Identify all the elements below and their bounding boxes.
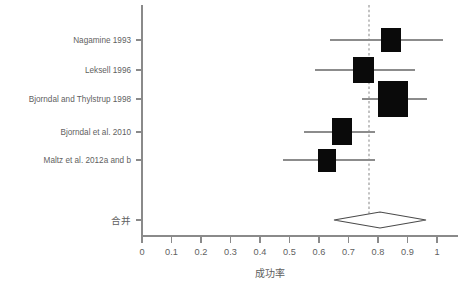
effect-size-marker	[353, 57, 374, 83]
effect-size-marker	[332, 118, 352, 145]
effect-size-marker	[318, 149, 336, 172]
x-tick-label-0-1: 0.1	[165, 247, 178, 257]
study-label-bjorndal-thylstrup-1998: Bjorndal and Thylstrup 1998	[29, 95, 132, 104]
x-tick-label-1: 1	[434, 247, 439, 257]
x-tick-label-0-7: 0.7	[342, 247, 355, 257]
x-tick-label-0-2: 0.2	[195, 247, 208, 257]
study-label-nagamine-1993: Nagamine 1993	[73, 36, 131, 45]
pooled-effect-diamond	[334, 212, 426, 228]
forest-plot-canvas: Nagamine 1993 Leksell 1996 Bjorndal and …	[0, 0, 466, 285]
y-axis-group	[136, 5, 142, 236]
x-tick-label-0: 0	[139, 247, 144, 257]
study-row-nagamine-1993	[330, 28, 443, 52]
x-axis-title: 成功率	[255, 267, 285, 279]
x-tick-label-0-4: 0.4	[254, 247, 267, 257]
study-row-bjorndal-2010	[304, 118, 375, 145]
x-axis-group	[142, 236, 458, 243]
study-label-maltz-2012: Maltz et al. 2012a and b	[44, 156, 132, 165]
x-tick-label-0-5: 0.5	[283, 247, 296, 257]
effect-size-marker	[381, 28, 401, 52]
x-tick-label-0-8: 0.8	[372, 247, 385, 257]
study-row-leksell-1996	[315, 57, 415, 83]
study-label-bjorndal-2010: Bjorndal et al. 2010	[60, 128, 131, 137]
x-tick-label-0-3: 0.3	[224, 247, 237, 257]
study-label-leksell-1996: Leksell 1996	[85, 66, 131, 75]
forest-plot-figure: Nagamine 1993 Leksell 1996 Bjorndal and …	[0, 0, 466, 285]
x-tick-label-0-6: 0.6	[313, 247, 326, 257]
effect-size-marker	[378, 81, 408, 117]
study-row-maltz-2012	[283, 149, 375, 172]
pooled-row-label: 合并	[111, 215, 131, 226]
x-tick-label-0-9: 0.9	[401, 247, 414, 257]
study-row-bjorndal-thylstrup-1998	[362, 81, 427, 117]
